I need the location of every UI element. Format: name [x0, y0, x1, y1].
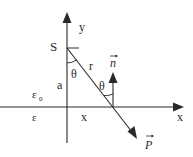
normal-arrow-icon [109, 72, 118, 83]
y-axis-arrow-icon [63, 12, 72, 23]
svg-text:P: P [144, 138, 153, 152]
y-axis-label: y [79, 20, 85, 34]
x-distance-label: x [81, 110, 87, 124]
x-axis-label: x [177, 110, 183, 124]
svg-text:n: n [110, 56, 116, 70]
x-axis [0, 103, 184, 112]
r-label: r [89, 59, 93, 73]
theta-label-2: θ [99, 79, 105, 93]
svg-text:0: 0 [39, 95, 43, 103]
a-label: a [57, 78, 63, 92]
geometry-diagram: y S r θ θ a ε 0 ε x x n P [0, 0, 193, 157]
n-vector-label: n [110, 55, 118, 71]
ray-r [67, 48, 137, 139]
epsilon0-label: ε 0 [32, 88, 43, 103]
epsilon-label: ε [32, 111, 37, 123]
svg-text:ε: ε [32, 88, 37, 100]
source-label: S [50, 39, 57, 54]
angle-arc-1 [67, 60, 77, 63]
angle-arc-2 [104, 94, 113, 96]
theta-label-1: θ [71, 67, 77, 81]
p-vector-label: P [144, 135, 154, 153]
normal-vector [109, 72, 118, 107]
